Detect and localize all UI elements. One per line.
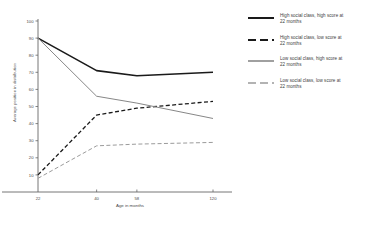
- legend-item-label: High social class, low score at 22 month…: [280, 35, 342, 47]
- x-tick-label: 40: [94, 196, 99, 201]
- series-line-3: [38, 142, 213, 178]
- series-line-1: [38, 101, 213, 175]
- y-tick-label: 10: [29, 173, 34, 178]
- legend-item-label: Low social class, high score at 22 month…: [280, 56, 342, 68]
- legend-line-swatch-icon: [248, 38, 274, 42]
- legend-item-label: High social class, high score at 22 mont…: [280, 13, 343, 25]
- x-tick-label: 22: [36, 196, 41, 201]
- series-line-2: [38, 38, 213, 118]
- series-line-0: [38, 38, 213, 76]
- x-axis-title: Age in months: [30, 203, 230, 208]
- legend-line-swatch-icon: [248, 81, 274, 85]
- y-tick-label: 70: [29, 70, 34, 75]
- legend-line-swatch-icon: [248, 16, 274, 20]
- y-axis-title-wrapper: Average position in distribution: [7, 0, 21, 185]
- legend-item: Low social class, high score at 22 month…: [248, 56, 378, 70]
- x-tick-label: 58: [135, 196, 140, 201]
- plot-area: 102030405060708090100224058120 Average p…: [0, 0, 230, 230]
- y-tick-label: 90: [29, 36, 34, 41]
- y-tick-label: 30: [29, 138, 34, 143]
- line-chart-canvas: 102030405060708090100224058120: [0, 0, 232, 212]
- legend-item: High social class, low score at 22 month…: [248, 35, 378, 49]
- legend-item: High social class, high score at 22 mont…: [248, 13, 378, 27]
- y-tick-label: 60: [29, 87, 34, 92]
- y-tick-label: 50: [29, 104, 34, 109]
- legend-line-swatch-icon: [248, 59, 274, 63]
- legend-item-label: Low social class, low score at 22 months: [280, 78, 341, 90]
- y-tick-label: 20: [29, 155, 34, 160]
- y-tick-label: 80: [29, 53, 34, 58]
- y-axis-title: Average position in distribution: [12, 63, 17, 122]
- x-tick-label: 120: [210, 196, 218, 201]
- y-tick-label: 100: [27, 19, 35, 24]
- y-tick-label: 40: [29, 121, 34, 126]
- legend-item: Low social class, low score at 22 months: [248, 78, 378, 92]
- chart-root: 102030405060708090100224058120 Average p…: [0, 0, 379, 230]
- chart-legend: High social class, high score at 22 mont…: [248, 13, 378, 99]
